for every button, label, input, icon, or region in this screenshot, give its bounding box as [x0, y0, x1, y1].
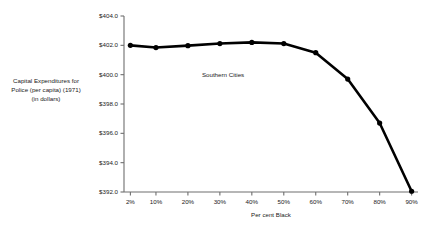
chart-figure: Capital Expenditures for Police (per cap… — [0, 0, 439, 231]
data-point-80% — [377, 120, 382, 125]
x-tick-label-9: 90% — [397, 198, 427, 205]
x-axis-title: Per cent Black — [211, 211, 331, 218]
data-point-30% — [217, 41, 222, 46]
y-tick-label-6: $392.0 — [76, 188, 118, 195]
y-tick-label-2: $400.0 — [76, 71, 118, 78]
x-tick-label-5: 50% — [269, 198, 299, 205]
data-point-40% — [249, 40, 254, 45]
series-line-southern-cities — [130, 42, 411, 191]
x-tick-label-1: 10% — [141, 198, 171, 205]
series-annotation-southern-cities: Southern Cities — [202, 71, 244, 78]
x-tick-label-3: 30% — [205, 198, 235, 205]
data-point-20% — [185, 43, 190, 48]
x-tick-label-2: 20% — [173, 198, 203, 205]
x-tick-label-6: 60% — [301, 198, 331, 205]
plot-area — [0, 0, 439, 231]
x-tick-label-8: 80% — [365, 198, 395, 205]
x-tick-label-4: 40% — [237, 198, 267, 205]
data-point-70% — [345, 76, 350, 81]
y-tick-label-3: $398.0 — [76, 100, 118, 107]
y-tick-label-5: $394.0 — [76, 159, 118, 166]
data-point-50% — [281, 41, 286, 46]
data-point-90% — [409, 189, 414, 194]
y-tick-label-4: $396.0 — [76, 129, 118, 136]
y-tick-label-0: $404.0 — [76, 12, 118, 19]
y-tick-label-1: $402.0 — [76, 41, 118, 48]
data-point-60% — [313, 50, 318, 55]
x-tick-label-7: 70% — [333, 198, 363, 205]
data-point-2% — [128, 43, 133, 48]
data-point-10% — [153, 45, 158, 50]
